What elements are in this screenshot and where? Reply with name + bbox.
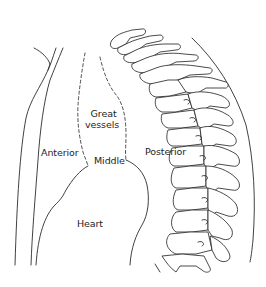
label-posterior: Posterior bbox=[145, 146, 186, 157]
label-great-vessels-line1: Great bbox=[88, 108, 119, 119]
label-heart: Heart bbox=[77, 218, 103, 229]
label-anterior: Anterior bbox=[41, 147, 79, 158]
label-great-vessels: Great vessels bbox=[88, 108, 119, 130]
mediastinum-diagram bbox=[0, 0, 266, 287]
label-middle: Middle bbox=[94, 155, 125, 166]
label-great-vessels-line2: vessels bbox=[85, 119, 119, 130]
heart-outline bbox=[36, 160, 148, 265]
